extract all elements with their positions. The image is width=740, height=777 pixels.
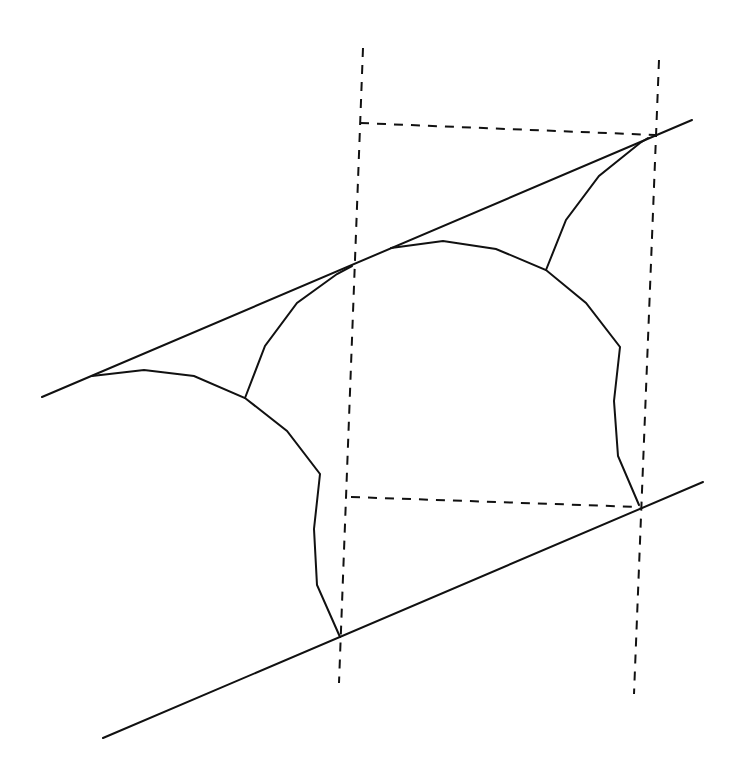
upper-tangent-line xyxy=(42,120,692,397)
right-cusp-fillet xyxy=(546,138,648,270)
solid-lines-group xyxy=(42,120,703,738)
profile-curves-group xyxy=(92,138,648,637)
geometry-diagram xyxy=(0,0,740,777)
lower-tangent-line xyxy=(103,482,703,738)
right-arc-profile xyxy=(391,241,639,505)
right-vertical-guide xyxy=(634,60,659,694)
left-vertical-guide xyxy=(339,48,363,683)
dashed-guides-group xyxy=(339,48,659,694)
left-cusp-fillet xyxy=(245,266,352,398)
lower-horizontal-guide xyxy=(351,497,640,507)
upper-horizontal-guide xyxy=(360,123,655,135)
left-arc-profile xyxy=(92,370,340,637)
